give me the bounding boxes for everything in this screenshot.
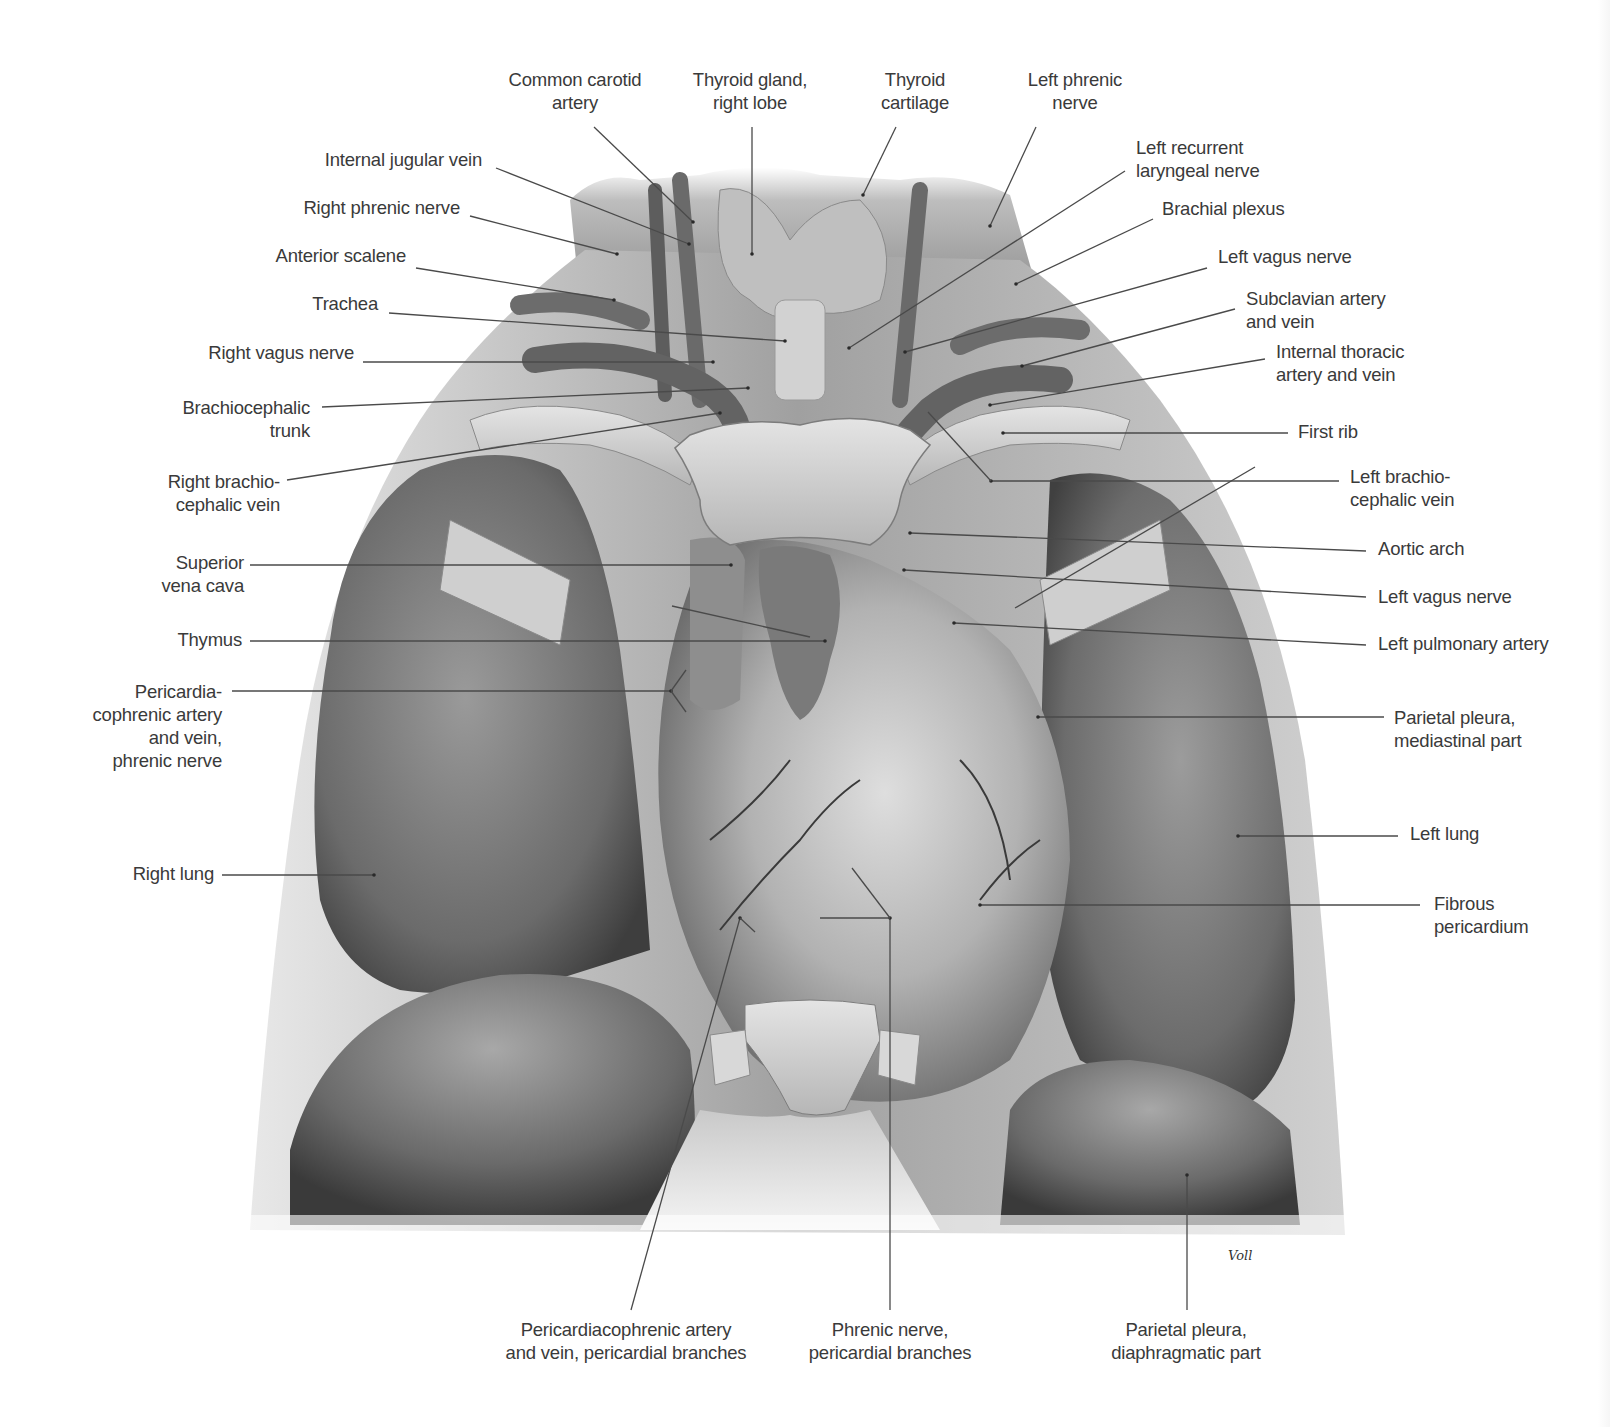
label-line: Trachea bbox=[310, 292, 378, 315]
label-line: cophrenic artery bbox=[70, 703, 222, 726]
label-line: laryngeal nerve bbox=[1136, 159, 1296, 182]
label-phrenic-nerve-pericardial-branches: Phrenic nerve,pericardial branches bbox=[790, 1318, 990, 1364]
costal-cartilage-right bbox=[710, 1030, 750, 1085]
label-right-vagus-nerve: Right vagus nerve bbox=[196, 341, 354, 364]
label-line: Left pulmonary artery bbox=[1378, 632, 1568, 655]
bottom-fade bbox=[240, 1215, 1360, 1245]
label-line: vena cava bbox=[160, 574, 244, 597]
label-fibrous-pericardium: Fibrouspericardium bbox=[1434, 892, 1544, 938]
label-line: Right brachio- bbox=[150, 470, 280, 493]
label-line: First rib bbox=[1298, 420, 1378, 443]
label-brachial-plexus: Brachial plexus bbox=[1162, 197, 1302, 220]
label-line: Right lung bbox=[122, 862, 214, 885]
label-line: Parietal pleura, bbox=[1096, 1318, 1276, 1341]
label-line: Left vagus nerve bbox=[1378, 585, 1528, 608]
label-line: Subclavian artery bbox=[1246, 287, 1406, 310]
label-brachiocephalic-trunk: Brachiocephalictrunk bbox=[160, 396, 310, 442]
label-line: Left recurrent bbox=[1136, 136, 1296, 159]
label-line: Parietal pleura, bbox=[1394, 706, 1544, 729]
label-thymus: Thymus bbox=[172, 628, 242, 651]
label-line: Left phrenic bbox=[1010, 68, 1140, 91]
thorax-illustration bbox=[0, 0, 1610, 1427]
label-line: pericardium bbox=[1434, 915, 1544, 938]
label-right-brachiocephalic-vein: Right brachio-cephalic vein bbox=[150, 470, 280, 516]
label-line: phrenic nerve bbox=[70, 749, 222, 772]
label-line: Internal thoracic bbox=[1276, 340, 1426, 363]
label-left-vagus-nerve-upper: Left vagus nerve bbox=[1218, 245, 1368, 268]
label-line: Superior bbox=[160, 551, 244, 574]
artist-signature: Voll bbox=[1228, 1248, 1252, 1263]
label-line: Pericardia- bbox=[70, 680, 222, 703]
label-line: mediastinal part bbox=[1394, 729, 1544, 752]
label-line: cephalic vein bbox=[1350, 488, 1480, 511]
label-line: Brachial plexus bbox=[1162, 197, 1302, 220]
label-aortic-arch: Aortic arch bbox=[1378, 537, 1478, 560]
label-left-vagus-nerve-lower: Left vagus nerve bbox=[1378, 585, 1528, 608]
label-subclavian-artery-and-vein: Subclavian arteryand vein bbox=[1246, 287, 1406, 333]
label-line: Fibrous bbox=[1434, 892, 1544, 915]
label-line: Aortic arch bbox=[1378, 537, 1478, 560]
label-trachea: Trachea bbox=[310, 292, 378, 315]
right-edge-strip bbox=[1598, 0, 1610, 1427]
label-left-pulmonary-artery: Left pulmonary artery bbox=[1378, 632, 1568, 655]
label-thyroid-cartilage: Thyroidcartilage bbox=[860, 68, 970, 114]
label-line: Anterior scalene bbox=[264, 244, 406, 267]
label-line: Thyroid bbox=[860, 68, 970, 91]
label-first-rib: First rib bbox=[1298, 420, 1378, 443]
label-line: cartilage bbox=[860, 91, 970, 114]
label-common-carotid-artery: Common carotidartery bbox=[490, 68, 660, 114]
label-line: diaphragmatic part bbox=[1096, 1341, 1276, 1364]
label-line: and vein, pericardial branches bbox=[486, 1341, 766, 1364]
label-pericardiacophrenic-artery-vein-pericardial-branches: Pericardiacophrenic arteryand vein, peri… bbox=[486, 1318, 766, 1364]
label-internal-jugular-vein: Internal jugular vein bbox=[300, 148, 482, 171]
label-thyroid-gland-right-lobe: Thyroid gland,right lobe bbox=[670, 68, 830, 114]
label-line: Phrenic nerve, bbox=[790, 1318, 990, 1341]
label-line: nerve bbox=[1010, 91, 1140, 114]
label-pericardiacophrenic-artery-vein-phrenic-nerve: Pericardia-cophrenic arteryand vein,phre… bbox=[70, 680, 222, 772]
label-line: and vein, bbox=[70, 726, 222, 749]
label-line: and vein bbox=[1246, 310, 1406, 333]
label-line: cephalic vein bbox=[150, 493, 280, 516]
label-superior-vena-cava: Superiorvena cava bbox=[160, 551, 244, 597]
label-line: artery bbox=[490, 91, 660, 114]
label-right-phrenic-nerve: Right phrenic nerve bbox=[288, 196, 460, 219]
label-parietal-pleura-mediastinal-part: Parietal pleura,mediastinal part bbox=[1394, 706, 1544, 752]
label-line: Left vagus nerve bbox=[1218, 245, 1368, 268]
label-line: Left lung bbox=[1410, 822, 1500, 845]
label-line: Pericardiacophrenic artery bbox=[486, 1318, 766, 1341]
label-parietal-pleura-diaphragmatic-part: Parietal pleura,diaphragmatic part bbox=[1096, 1318, 1276, 1364]
label-line: Right vagus nerve bbox=[196, 341, 354, 364]
label-left-phrenic-nerve: Left phrenicnerve bbox=[1010, 68, 1140, 114]
label-line: Internal jugular vein bbox=[300, 148, 482, 171]
trachea-shape bbox=[775, 300, 825, 400]
anatomical-figure: Common carotidarteryThyroid gland,right … bbox=[0, 0, 1610, 1427]
label-anterior-scalene: Anterior scalene bbox=[264, 244, 406, 267]
label-left-recurrent-laryngeal-nerve: Left recurrentlaryngeal nerve bbox=[1136, 136, 1296, 182]
label-line: Common carotid bbox=[490, 68, 660, 91]
label-line: pericardial branches bbox=[790, 1341, 990, 1364]
superior-vena-cava-shape bbox=[690, 538, 745, 711]
label-line: Right phrenic nerve bbox=[288, 196, 460, 219]
label-line: artery and vein bbox=[1276, 363, 1426, 386]
label-line: Thymus bbox=[172, 628, 242, 651]
label-line: Thyroid gland, bbox=[670, 68, 830, 91]
label-left-lung: Left lung bbox=[1410, 822, 1500, 845]
costal-cartilage-left bbox=[878, 1030, 920, 1085]
label-internal-thoracic-artery-and-vein: Internal thoracicartery and vein bbox=[1276, 340, 1426, 386]
label-line: trunk bbox=[160, 419, 310, 442]
label-line: right lobe bbox=[670, 91, 830, 114]
label-line: Left brachio- bbox=[1350, 465, 1480, 488]
label-line: Brachiocephalic bbox=[160, 396, 310, 419]
label-left-brachiocephalic-vein: Left brachio-cephalic vein bbox=[1350, 465, 1480, 511]
label-right-lung: Right lung bbox=[122, 862, 214, 885]
